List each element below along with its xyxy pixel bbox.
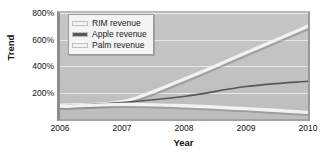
series-line xyxy=(60,81,308,106)
y-tick-label: 800% xyxy=(20,8,54,18)
legend-item: Palm revenue xyxy=(73,40,147,51)
y-tick-label: 200% xyxy=(20,88,54,98)
chart-figure: Trend 200%400%600%800% 20062007200820092… xyxy=(0,0,325,160)
x-axis-tick-labels: 20062007200820092010 xyxy=(57,123,310,137)
x-tick-label: 2006 xyxy=(40,123,80,133)
legend-label: RIM revenue xyxy=(92,18,141,29)
legend-item: Apple revenue xyxy=(73,29,147,40)
x-axis-title: Year xyxy=(57,137,310,148)
legend-swatch xyxy=(73,22,87,25)
x-tick-label: 2007 xyxy=(102,123,142,133)
x-tick-label: 2009 xyxy=(226,123,266,133)
legend-label: Palm revenue xyxy=(92,40,144,51)
y-tick-label: 600% xyxy=(20,35,54,45)
chart-legend: RIM revenueApple revenuePalm revenue xyxy=(68,14,154,55)
x-tick-label: 2010 xyxy=(288,123,325,133)
y-axis-title: Trend xyxy=(5,20,16,76)
y-axis-tick-labels: 200%400%600%800% xyxy=(16,0,54,160)
legend-swatch xyxy=(73,44,87,47)
y-tick-label: 400% xyxy=(20,61,54,71)
legend-item: RIM revenue xyxy=(73,18,147,29)
legend-label: Apple revenue xyxy=(92,29,147,40)
x-tick-label: 2008 xyxy=(164,123,204,133)
legend-swatch xyxy=(73,33,87,36)
